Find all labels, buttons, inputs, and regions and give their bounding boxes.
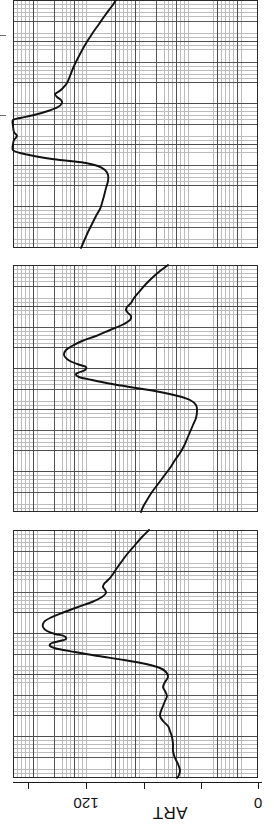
- axis-tick-120: [86, 782, 87, 789]
- waveform-panel-3: [13, 530, 258, 778]
- axis-tick-3: [201, 782, 202, 789]
- art-waveform-path: [43, 530, 180, 778]
- art-waveform-path: [12, 0, 116, 248]
- art-trace-1: [13, 0, 258, 248]
- art-trace-3: [13, 530, 258, 778]
- waveform-panel-2: [13, 265, 258, 512]
- axis-tick-2: [144, 782, 145, 789]
- axis-tick-label-120: 120: [71, 796, 101, 811]
- waveform-figure: 120 0 ART: [0, 0, 274, 825]
- pressure-axis: 120 0 ART: [0, 778, 274, 825]
- axis-tick-label-0: 0: [249, 796, 267, 811]
- edge-tick-lower: [0, 115, 6, 116]
- art-waveform-path: [64, 265, 197, 512]
- art-trace-2: [13, 265, 258, 512]
- axis-tick-zero: [258, 782, 259, 789]
- edge-tick-upper: [0, 35, 6, 36]
- axis-tick-0: [28, 782, 29, 789]
- axis-line: [13, 782, 262, 783]
- axis-title-art: ART: [142, 804, 198, 821]
- waveform-panel-1: [13, 0, 258, 248]
